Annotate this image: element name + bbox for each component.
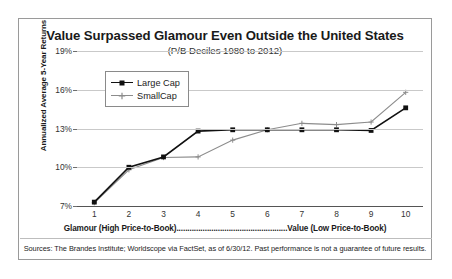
y-axis-tick-mark	[73, 129, 77, 130]
chart-title: Value Surpassed Glamour Even Outside the…	[19, 28, 431, 43]
plus-marker-icon	[119, 92, 126, 99]
chart-legend: Large Cap SmallCap	[105, 71, 189, 107]
chart-card: Value Surpassed Glamour Even Outside the…	[18, 18, 432, 260]
y-axis-tick-label: 19%	[55, 46, 72, 56]
x-axis-caption: Glamour (High Price-to-Book)............…	[19, 224, 431, 233]
footer-divider	[20, 238, 432, 239]
gridline	[77, 129, 423, 130]
legend-item-smallcap: SmallCap	[111, 89, 180, 102]
x-axis-tick-label: 9	[369, 209, 374, 219]
x-axis-tick-label: 4	[196, 209, 201, 219]
legend-label-large-cap: Large Cap	[137, 78, 180, 88]
legend-swatch-large-cap	[111, 78, 133, 87]
y-axis-tick-mark	[73, 51, 77, 52]
gridline	[77, 167, 423, 168]
x-axis-tick-label: 7	[300, 209, 305, 219]
y-axis-tick-mark	[73, 167, 77, 168]
x-axis-line	[77, 206, 423, 207]
source-note: Sources: The Brandes Institute; Worldsco…	[19, 244, 431, 253]
x-axis-tick-label: 10	[401, 209, 410, 219]
x-axis-tick-label: 5	[230, 209, 235, 219]
x-axis-tick-label: 2	[127, 209, 132, 219]
x-axis-tick-label: 1	[92, 209, 97, 219]
legend-swatch-smallcap	[111, 91, 133, 100]
y-axis-label: Annualized Average 5-Year Returns	[39, 16, 48, 156]
x-axis-tick-label: 6	[265, 209, 270, 219]
x-axis-tick-label: 3	[161, 209, 166, 219]
legend-label-smallcap: SmallCap	[137, 91, 177, 101]
y-axis-tick-label: 13%	[55, 124, 72, 134]
gridline	[77, 51, 423, 52]
y-axis-tick-mark	[73, 90, 77, 91]
y-axis-tick-label: 16%	[55, 85, 72, 95]
y-axis-tick-label: 7%	[60, 201, 72, 211]
x-axis-tick-label: 8	[334, 209, 339, 219]
square-marker-icon	[120, 80, 125, 85]
legend-item-large-cap: Large Cap	[111, 76, 180, 89]
y-axis-tick-label: 10%	[55, 162, 72, 172]
